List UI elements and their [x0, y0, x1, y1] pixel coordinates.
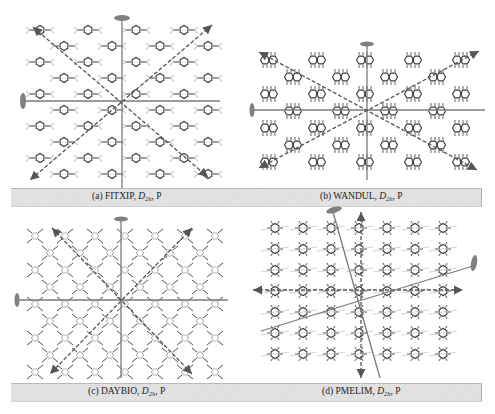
caption-a-label: (a) — [92, 191, 103, 201]
caption-d: (d) PMELIM, D2h, P — [322, 386, 401, 397]
panel-b-wandul — [245, 0, 495, 188]
molecular-packing-diagram-d — [245, 206, 495, 383]
caption-a-name: FITXIP — [105, 191, 134, 201]
panel-a-fitxip — [0, 0, 245, 188]
caption-b-suffix: , P — [393, 191, 403, 201]
molecular-packing-diagram-c — [0, 206, 245, 383]
caption-a-suffix: , P — [152, 191, 162, 201]
caption-b: (b) WANDUL, D2h, P — [320, 191, 403, 202]
molecular-packing-diagram-a — [0, 0, 245, 188]
caption-d-name: PMELIM — [335, 386, 372, 396]
caption-b-label: (b) — [320, 191, 331, 201]
caption-b-name: WANDUL — [333, 191, 374, 201]
panel-d-pmelim — [245, 206, 495, 383]
caption-c-name: DAYBIO — [101, 386, 137, 396]
caption-c-suffix: , P — [155, 386, 165, 396]
panel-c-daybio — [0, 206, 245, 383]
caption-a: (a) FITXIP, D2h, P — [92, 191, 162, 202]
caption-c: (c) DAYBIO, D2h, P — [88, 386, 165, 397]
molecular-packing-diagram-b — [245, 0, 495, 188]
caption-d-group: D — [377, 386, 384, 396]
caption-d-suffix: , P — [391, 386, 401, 396]
caption-d-label: (d) — [322, 386, 333, 396]
caption-c-group: D — [142, 386, 149, 396]
caption-c-label: (c) — [88, 386, 99, 396]
